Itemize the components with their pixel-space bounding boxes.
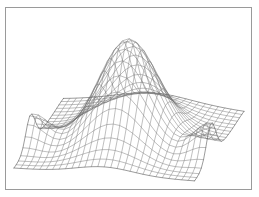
mesh-boundary-line <box>14 98 64 168</box>
mesh-grid-line <box>54 88 235 124</box>
mesh-grid-line <box>21 138 202 168</box>
mesh-grid-line <box>39 39 220 140</box>
mesh-grid-line <box>50 74 231 131</box>
figure-root: Perspective wireframe mesh of a smooth b… <box>0 0 259 197</box>
mesh-group <box>14 39 244 181</box>
surface-wireframe-plot <box>0 0 259 197</box>
mesh-grid-line <box>162 105 212 177</box>
mesh-grid-line <box>27 98 77 169</box>
mesh-grid-line <box>124 61 174 170</box>
mesh-grid-line <box>57 92 238 122</box>
mesh-grid-line <box>36 42 217 137</box>
mesh-boundary-line <box>195 111 245 181</box>
mesh-grid-line <box>149 102 199 175</box>
